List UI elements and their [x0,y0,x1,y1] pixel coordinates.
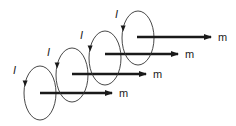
current-direction-arrow-icon [88,46,93,52]
current-loop-4: mI [115,8,227,65]
current-label: I [115,8,118,20]
current-direction-arrow-icon [23,81,28,87]
diagram-svg: mImImImI [0,0,236,126]
current-loop-1: mI [13,64,128,120]
current-direction-arrow-icon [55,63,60,69]
current-direction-arrow-icon [121,26,126,32]
current-label: I [80,29,83,41]
moment-label: m [218,31,227,43]
current-label: I [13,64,16,76]
current-loops-diagram: mImImImI [0,0,236,126]
loop-ellipse [89,31,121,85]
moment-label: m [119,87,128,99]
moment-label: m [185,48,194,60]
current-label: I [47,46,50,58]
moment-label: m [153,68,162,80]
